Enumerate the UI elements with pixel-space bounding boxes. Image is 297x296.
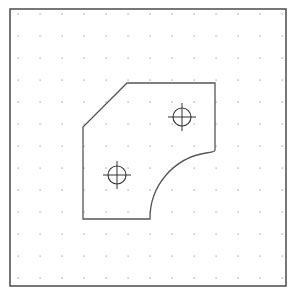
grid-dot [84, 212, 85, 213]
grid-dot [18, 168, 19, 169]
grid-dot [238, 146, 239, 147]
grid-dot [62, 102, 63, 103]
grid-dot [150, 168, 151, 169]
grid-dot [260, 58, 261, 59]
grid-dot [84, 190, 85, 191]
grid-dot [216, 36, 217, 37]
grid-dot [216, 168, 217, 169]
grid-dot [40, 190, 41, 191]
grid-dot [172, 124, 173, 125]
grid-dot [260, 102, 261, 103]
grid-dot [194, 80, 195, 81]
grid-dot [150, 102, 151, 103]
grid-dot [18, 80, 19, 81]
grid-dot [128, 190, 129, 191]
grid-dot [128, 58, 129, 59]
grid-dot [62, 80, 63, 81]
grid-dot [216, 234, 217, 235]
grid-dot [194, 234, 195, 235]
grid-dot [106, 168, 107, 169]
grid-dot [194, 146, 195, 147]
drawing-frame [10, 9, 286, 286]
grid-dot [106, 58, 107, 59]
grid-dot [282, 234, 283, 235]
grid-dot [40, 36, 41, 37]
grid-dot [106, 256, 107, 257]
grid-dot [216, 58, 217, 59]
grid-dot [62, 278, 63, 279]
grid-dot [216, 190, 217, 191]
grid-dot [106, 234, 107, 235]
grid-dot [194, 190, 195, 191]
grid-dot [128, 234, 129, 235]
grid-dot [238, 58, 239, 59]
grid-dot [194, 124, 195, 125]
grid-dot [216, 124, 217, 125]
grid-dot [172, 36, 173, 37]
hole-lower-left-icon[interactable] [103, 161, 131, 189]
grid-dot [84, 58, 85, 59]
grid-dot [106, 36, 107, 37]
grid-dot [84, 102, 85, 103]
grid-dot [194, 256, 195, 257]
grid-dot [18, 256, 19, 257]
grid-dot [62, 58, 63, 59]
grid-dot [106, 146, 107, 147]
grid-dot [238, 168, 239, 169]
grid-dot [40, 146, 41, 147]
grid-dot [128, 278, 129, 279]
grid-dot [282, 190, 283, 191]
grid-dot [172, 234, 173, 235]
grid-dot [172, 256, 173, 257]
grid-dot [150, 278, 151, 279]
grid-dot [62, 234, 63, 235]
grid-dot [84, 234, 85, 235]
grid-dot [18, 124, 19, 125]
grid-dots [18, 14, 283, 279]
grid-dot [216, 146, 217, 147]
grid-dot [128, 14, 129, 15]
grid-dot [238, 80, 239, 81]
grid-dot [128, 102, 129, 103]
grid-dot [18, 36, 19, 37]
grid-dot [40, 124, 41, 125]
grid-dot [128, 256, 129, 257]
grid-dot [216, 256, 217, 257]
grid-dot [260, 212, 261, 213]
grid-dot [172, 278, 173, 279]
grid-dot [150, 190, 151, 191]
grid-dot [282, 168, 283, 169]
grid-dot [62, 256, 63, 257]
grid-dot [282, 256, 283, 257]
grid-dot [282, 80, 283, 81]
grid-dot [150, 58, 151, 59]
grid-dot [216, 102, 217, 103]
grid-dot [40, 14, 41, 15]
part-outline[interactable] [83, 83, 215, 219]
grid-dot [260, 14, 261, 15]
grid-dot [106, 124, 107, 125]
grid-dot [172, 58, 173, 59]
grid-dot [84, 36, 85, 37]
grid-dot [62, 212, 63, 213]
grid-dot [18, 212, 19, 213]
grid-dot [260, 168, 261, 169]
grid-dot [18, 234, 19, 235]
grid-dot [216, 278, 217, 279]
grid-dot [40, 234, 41, 235]
grid-dot [172, 190, 173, 191]
grid-dot [282, 124, 283, 125]
grid-dot [260, 278, 261, 279]
grid-dot [260, 256, 261, 257]
drawing-canvas[interactable] [0, 0, 297, 296]
grid-dot [150, 124, 151, 125]
grid-dot [194, 36, 195, 37]
hole-upper-right-icon[interactable] [168, 103, 196, 131]
grid-dot [150, 146, 151, 147]
grid-dot [62, 146, 63, 147]
grid-dot [84, 168, 85, 169]
grid-dot [84, 256, 85, 257]
grid-dot [106, 278, 107, 279]
grid-dot [18, 58, 19, 59]
grid-dot [238, 190, 239, 191]
